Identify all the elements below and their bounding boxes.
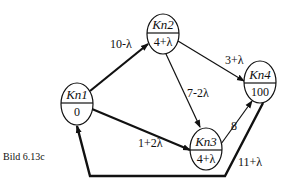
node-kn2-value: 4+λ (154, 35, 173, 49)
node-kn3: Kn3 4+λ (190, 128, 222, 170)
node-kn2: Kn2 4+λ (147, 14, 179, 54)
network-diagram: 10-λ 3+λ 7-2λ 1+2λ 8 11+λ Kn1 0 Kn2 4+λ … (0, 0, 297, 186)
node-kn4: Kn4 100 (244, 61, 276, 103)
node-kn4-value: 100 (251, 85, 269, 99)
edge-label-kn1-kn2: 10-λ (110, 37, 132, 51)
node-kn3-value: 4+λ (197, 152, 216, 166)
node-kn1-value: 0 (74, 105, 80, 119)
edge-label-kn3-kn4: 8 (231, 119, 237, 133)
node-kn1-name: Kn1 (65, 87, 88, 102)
node-kn3-name: Kn3 (194, 134, 217, 149)
edge-label-kn2-kn3: 7-2λ (187, 86, 209, 100)
figure-caption: Bild 6.13c (3, 151, 45, 162)
edge-label-kn1-kn3: 1+2λ (138, 136, 163, 150)
edge-label-kn2-kn4: 3+λ (225, 53, 244, 67)
node-kn2-name: Kn2 (151, 17, 174, 32)
node-kn4-name: Kn4 (248, 67, 271, 82)
edge-label-kn4-kn1: 11+λ (238, 155, 262, 169)
edge-kn1-kn2 (90, 44, 148, 91)
node-kn1: Kn1 0 (61, 83, 93, 125)
